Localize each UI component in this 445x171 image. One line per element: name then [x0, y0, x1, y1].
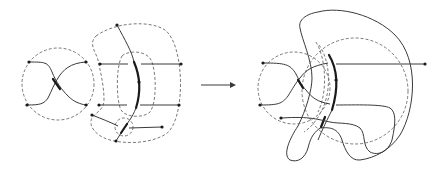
left-crescent-region: [90, 23, 182, 142]
left-panel: [22, 23, 183, 142]
diagram-figure: [0, 0, 445, 171]
arrow-right-icon: [201, 82, 236, 88]
right-solid-boundary: [287, 10, 413, 161]
right-panel: [258, 10, 427, 161]
right-large-dashed-circle: [302, 38, 408, 144]
left-crossing-circle: [22, 48, 94, 120]
